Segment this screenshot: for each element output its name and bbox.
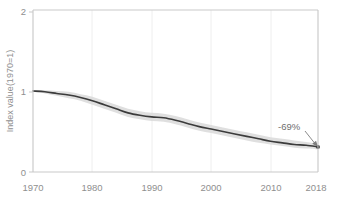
x-tick-label-2018: 2018	[305, 182, 326, 193]
plot-background	[33, 10, 318, 172]
chart-container: -69% 2 1 0 1970 1980 1990 2000 2010 2018…	[0, 0, 337, 205]
percent-change-label: -69%	[278, 121, 301, 132]
x-tick-label-2010: 2010	[260, 182, 281, 193]
x-tick-label-1970: 1970	[22, 182, 43, 193]
y-axis-title: Index value(1970=1)	[5, 50, 15, 132]
y-tick-label-2: 2	[21, 6, 26, 17]
y-tick-label-1: 1	[21, 86, 26, 97]
line-chart-figure: -69% 2 1 0 1970 1980 1990 2000 2010 2018…	[0, 0, 337, 205]
x-tick-label-2000: 2000	[200, 182, 221, 193]
x-tick-label-1980: 1980	[81, 182, 102, 193]
y-tick-label-0: 0	[21, 167, 26, 178]
x-tick-label-1990: 1990	[141, 182, 162, 193]
y-tick-marks	[29, 12, 33, 172]
